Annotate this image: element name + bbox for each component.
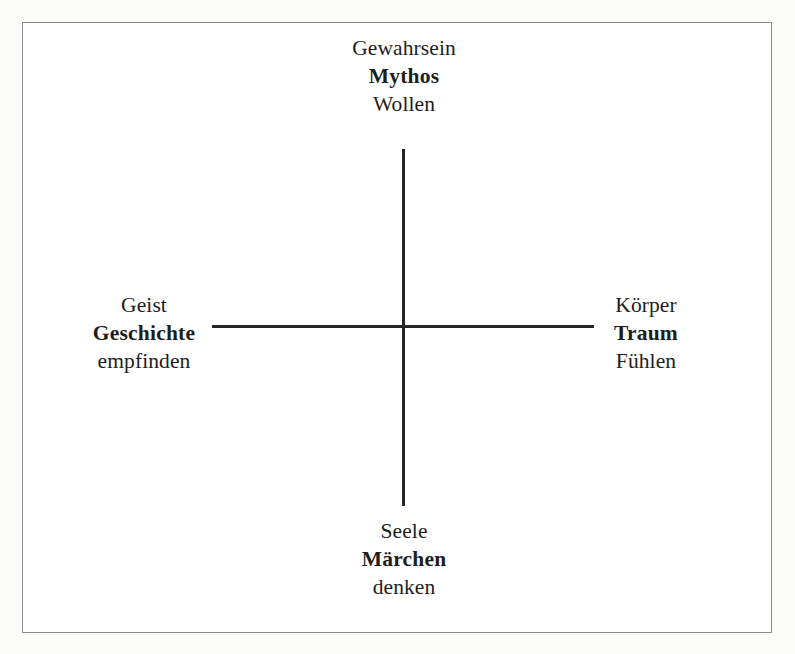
pole-bottom-lower-label: denken bbox=[362, 574, 447, 602]
pole-left-main-label: Geschichte bbox=[93, 320, 195, 348]
horizontal-axis-line bbox=[212, 325, 594, 328]
axis-canvas: Gewahrsein Mythos Wollen Geist Geschicht… bbox=[23, 23, 771, 632]
vertical-axis-line bbox=[402, 149, 405, 506]
pole-left-upper-label: Geist bbox=[93, 292, 195, 320]
pole-top-main-label: Mythos bbox=[352, 63, 456, 91]
pole-right-group: Körper Traum Fühlen bbox=[614, 292, 678, 376]
pole-bottom-main-label: Märchen bbox=[362, 546, 447, 574]
scanned-page-background: Gewahrsein Mythos Wollen Geist Geschicht… bbox=[0, 0, 795, 654]
pole-top-upper-label: Gewahrsein bbox=[352, 35, 456, 63]
pole-top-group: Gewahrsein Mythos Wollen bbox=[352, 35, 456, 119]
pole-left-group: Geist Geschichte empfinden bbox=[93, 292, 195, 376]
pole-right-main-label: Traum bbox=[614, 320, 678, 348]
pole-right-upper-label: Körper bbox=[614, 292, 678, 320]
pole-bottom-group: Seele Märchen denken bbox=[362, 518, 447, 602]
pole-left-lower-label: empfinden bbox=[93, 348, 195, 376]
pole-bottom-upper-label: Seele bbox=[362, 518, 447, 546]
pole-right-lower-label: Fühlen bbox=[614, 348, 678, 376]
pole-top-lower-label: Wollen bbox=[352, 91, 456, 119]
diagram-frame: Gewahrsein Mythos Wollen Geist Geschicht… bbox=[22, 22, 772, 633]
